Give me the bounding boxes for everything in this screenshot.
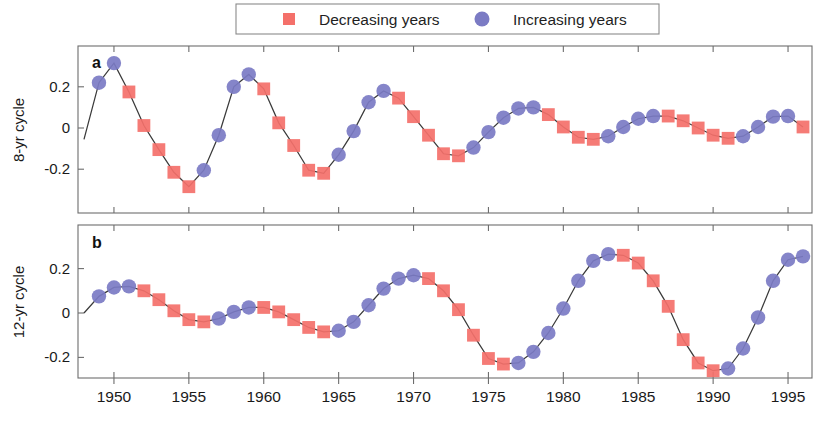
data-point-decreasing xyxy=(167,304,180,317)
x-tick-label: 1980 xyxy=(546,388,581,405)
legend-label-decreasing: Decreasing years xyxy=(319,11,440,28)
data-point-increasing xyxy=(361,298,375,312)
panel-letter: b xyxy=(92,234,102,251)
data-point-increasing xyxy=(556,301,570,315)
data-point-decreasing xyxy=(677,333,690,346)
data-point-increasing xyxy=(541,326,555,340)
data-point-decreasing xyxy=(677,114,690,127)
data-point-decreasing xyxy=(152,293,165,306)
data-point-increasing xyxy=(242,300,256,314)
data-point-increasing xyxy=(751,120,765,134)
data-point-decreasing xyxy=(272,305,285,318)
x-tick-label: 1960 xyxy=(247,388,282,405)
shared-x-axis: 1950195519601965197019751980198519901995 xyxy=(97,378,806,405)
data-point-increasing xyxy=(721,361,735,375)
y-tick-label: 0.2 xyxy=(49,260,70,277)
data-point-decreasing xyxy=(632,257,645,270)
data-point-increasing xyxy=(346,315,360,329)
data-point-decreasing xyxy=(123,86,136,99)
data-point-decreasing xyxy=(452,303,465,316)
data-point-decreasing xyxy=(302,321,315,334)
data-point-increasing xyxy=(376,84,390,98)
data-point-increasing xyxy=(212,311,226,325)
data-point-increasing xyxy=(586,254,600,268)
data-point-increasing xyxy=(197,163,211,177)
x-tick-label: 1970 xyxy=(396,388,431,405)
y-tick-label: 0 xyxy=(62,119,70,136)
data-point-decreasing xyxy=(617,249,630,262)
legend-circle-marker-icon xyxy=(475,12,490,27)
data-point-decreasing xyxy=(692,122,705,135)
data-point-decreasing xyxy=(392,92,405,105)
data-point-decreasing xyxy=(152,143,165,156)
data-point-increasing xyxy=(331,324,345,338)
marker-group xyxy=(92,247,810,377)
data-point-increasing xyxy=(331,148,345,162)
data-point-decreasing xyxy=(662,300,675,313)
data-point-decreasing xyxy=(257,82,270,95)
legend-square-marker-icon xyxy=(283,13,295,25)
data-point-increasing xyxy=(92,289,106,303)
x-tick-label: 1965 xyxy=(321,388,355,405)
x-tick-label: 1995 xyxy=(771,388,805,405)
y-tick-label: -0.2 xyxy=(44,160,70,177)
panel-a: 0.20-0.28-yr cyclea xyxy=(10,46,812,213)
y-axis-title: 12-yr cycle xyxy=(10,266,27,339)
y-tick-label: 0.2 xyxy=(49,78,70,95)
data-point-decreasing xyxy=(272,116,285,129)
data-point-increasing xyxy=(511,356,525,370)
chart-legend: Decreasing yearsIncreasing years xyxy=(236,4,659,34)
data-point-increasing xyxy=(631,112,645,126)
data-point-increasing xyxy=(227,80,241,94)
data-point-decreasing xyxy=(722,132,735,145)
data-point-increasing xyxy=(212,128,226,142)
data-point-decreasing xyxy=(317,325,330,338)
data-point-increasing xyxy=(466,140,480,154)
data-point-decreasing xyxy=(437,284,450,297)
data-point-decreasing xyxy=(692,357,705,370)
data-point-increasing xyxy=(406,268,420,282)
data-point-increasing xyxy=(766,109,780,123)
data-point-increasing xyxy=(781,109,795,123)
data-point-decreasing xyxy=(797,121,810,134)
chart-svg: Decreasing yearsIncreasing years 0.20-0.… xyxy=(0,0,817,421)
data-point-increasing xyxy=(242,67,256,81)
data-line xyxy=(84,254,803,371)
data-point-decreasing xyxy=(257,301,270,314)
data-point-decreasing xyxy=(287,139,300,152)
data-point-increasing xyxy=(107,56,121,70)
data-point-decreasing xyxy=(437,147,450,160)
data-point-decreasing xyxy=(587,133,600,146)
data-point-decreasing xyxy=(302,164,315,177)
y-axis-title: 8-yr cycle xyxy=(10,98,27,162)
data-point-increasing xyxy=(736,129,750,143)
x-tick-label: 1990 xyxy=(696,388,731,405)
data-point-increasing xyxy=(122,279,136,293)
data-point-increasing xyxy=(227,305,241,319)
data-point-decreasing xyxy=(182,313,195,326)
data-point-increasing xyxy=(766,274,780,288)
data-point-decreasing xyxy=(542,108,555,121)
panel-b: 0.20-0.212-yr cycleb xyxy=(10,225,812,378)
legend-label-increasing: Increasing years xyxy=(513,11,627,28)
data-point-decreasing xyxy=(182,180,195,193)
data-point-increasing xyxy=(391,271,405,285)
data-point-increasing xyxy=(751,310,765,324)
data-point-increasing xyxy=(796,249,810,263)
x-tick-label: 1950 xyxy=(97,388,132,405)
data-point-increasing xyxy=(526,100,540,114)
data-point-decreasing xyxy=(647,274,660,287)
data-point-decreasing xyxy=(138,119,151,132)
figure-container: Decreasing yearsIncreasing years 0.20-0.… xyxy=(0,0,817,421)
data-point-decreasing xyxy=(422,129,435,142)
data-point-increasing xyxy=(107,280,121,294)
data-point-decreasing xyxy=(167,166,180,179)
data-point-decreasing xyxy=(467,329,480,342)
data-point-increasing xyxy=(646,109,660,123)
data-point-increasing xyxy=(616,120,630,134)
plot-frame xyxy=(78,225,812,378)
x-tick-label: 1985 xyxy=(621,388,655,405)
data-point-decreasing xyxy=(662,110,675,123)
data-point-increasing xyxy=(571,274,585,288)
marker-group xyxy=(92,56,810,193)
